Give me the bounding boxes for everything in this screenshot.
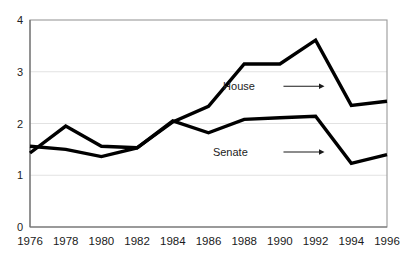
line-chart: 01234 1976197819801982198419861988199019… — [0, 0, 414, 261]
y-tick-label: 1 — [17, 169, 23, 181]
annotation-label-house: House — [223, 80, 255, 92]
x-tick-label: 1984 — [160, 235, 186, 247]
x-tick-label: 1994 — [339, 235, 365, 247]
x-tick-label: 1992 — [303, 235, 329, 247]
x-axis-tick-labels: 1976197819801982198419861988199019921994… — [17, 235, 400, 247]
y-tick-label: 2 — [17, 118, 23, 130]
chart-container: 01234 1976197819801982198419861988199019… — [0, 0, 414, 261]
y-tick-label: 3 — [17, 66, 23, 78]
x-tick-label: 1986 — [196, 235, 222, 247]
x-tick-label: 1996 — [374, 235, 400, 247]
x-tick-label: 1980 — [89, 235, 115, 247]
x-tick-label: 1990 — [267, 235, 293, 247]
x-tick-label: 1988 — [231, 235, 257, 247]
annotation-label-senate: Senate — [213, 146, 248, 158]
x-tick-label: 1982 — [124, 235, 150, 247]
x-tick-label: 1978 — [53, 235, 79, 247]
y-tick-label: 0 — [17, 221, 23, 233]
y-tick-label: 4 — [17, 14, 23, 26]
x-tick-label: 1976 — [17, 235, 43, 247]
